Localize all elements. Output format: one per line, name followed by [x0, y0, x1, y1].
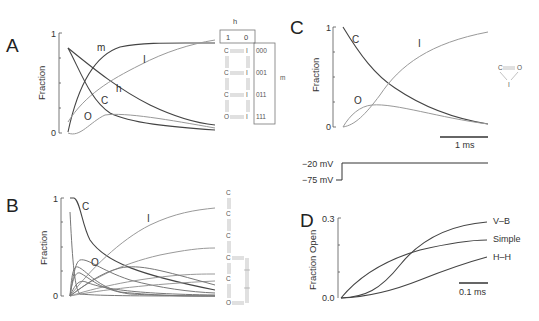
voltage-step-trace — [336, 163, 488, 180]
panel-a-curve-i — [68, 40, 215, 122]
panel-d-legend-hh: H–H — [493, 252, 511, 262]
panel-a-label-o: O — [84, 111, 92, 122]
scheme-a-state: C — [224, 69, 229, 76]
panel-b-ytick-0: 0 — [53, 291, 58, 301]
scheme-c-state-i: I — [508, 81, 510, 88]
panel-b-y-axis — [61, 198, 64, 296]
panel-c-scheme: C O I — [498, 64, 522, 88]
panel-c-ytick-0: 0 — [326, 122, 331, 132]
scheme-a-state: C — [224, 47, 229, 54]
panel-b-label-i: I — [147, 213, 150, 224]
scheme-a-state: O — [224, 113, 229, 120]
panel-a-label: A — [6, 35, 19, 56]
panel-c-label-i: I — [418, 38, 421, 49]
scheme-a-state: I — [246, 47, 248, 54]
panel-b-ylabel: Fraction — [38, 231, 49, 265]
panel-d-y-axis — [338, 218, 341, 298]
scheme-b-state: C — [226, 254, 231, 261]
panel-c-curve-c — [343, 27, 488, 124]
panel-a-label-h: h — [116, 83, 122, 94]
panel-d-ytick-bottom: 0.0 — [322, 293, 335, 303]
scheme-b-state: O — [226, 299, 231, 306]
panel-a-label-i: I — [143, 54, 146, 65]
panel-c-label-o: O — [354, 95, 362, 106]
panel-d-legend-simple: Simple — [493, 234, 521, 244]
scheme-a-state: I — [246, 91, 248, 98]
panel-b: B 1 0 Fraction C I O C C C C C O — [6, 189, 250, 306]
scheme-b-state: C — [226, 275, 231, 282]
panel-c: C 1 0 Fraction C I O 1 ms C O I −20 mV −… — [290, 17, 522, 185]
scheme-c-state-o: O — [517, 64, 522, 71]
scheme-a-arrows — [226, 50, 249, 118]
scheme-h-state-0: 0 — [244, 33, 248, 42]
figure-canvas: A 1 0 Fraction m I h C O h 1 0 000 001 0… — [0, 0, 539, 321]
voltage-low-label: −75 mV — [302, 175, 333, 185]
panel-d: D 0.3 0.0 Fraction Open V–B Simple H–H 0… — [300, 210, 521, 303]
panel-c-curve-o — [343, 105, 488, 127]
scheme-h-title: h — [233, 17, 237, 26]
scheme-a-state: C — [224, 91, 229, 98]
panel-c-y-axis — [333, 27, 336, 127]
scheme-m-title: m — [280, 74, 285, 81]
scheme-m-state-3: 111 — [256, 113, 266, 120]
voltage-high-label: −20 mV — [302, 159, 333, 169]
panel-c-label: C — [290, 17, 304, 38]
panel-b-curve-c — [70, 198, 215, 290]
panel-d-label: D — [300, 210, 314, 231]
scheme-b-state: C — [226, 232, 231, 239]
panel-d-scalebar-label: 0.1 ms — [459, 287, 487, 297]
panel-a-scheme: h 1 0 000 001 011 111 m C C C O I I I I — [220, 17, 285, 124]
scheme-m-state-1: 001 — [256, 69, 267, 76]
panel-b-label: B — [6, 195, 19, 216]
scheme-b-state: C — [226, 189, 231, 196]
voltage-protocol: −20 mV −75 mV — [302, 159, 488, 185]
scheme-m-box — [254, 43, 275, 124]
scheme-b-arrows — [228, 198, 250, 304]
scheme-m-state-0: 000 — [256, 47, 267, 54]
scheme-a-state: I — [246, 113, 248, 120]
scheme-b-state: C — [226, 210, 231, 217]
panel-c-label-c: C — [352, 34, 359, 45]
panel-a-ytick-1: 1 — [51, 29, 56, 39]
panel-a-label-m: m — [97, 42, 105, 53]
panel-c-scalebar-label: 1 ms — [455, 140, 475, 150]
panel-c-ylabel: Fraction — [310, 58, 321, 92]
panel-b-ytick-1: 1 — [53, 194, 58, 204]
scheme-m-state-2: 011 — [256, 91, 267, 98]
panel-b-scheme: C C C C C O — [226, 189, 250, 306]
panel-b-label-c: C — [82, 201, 89, 212]
scheme-h-state-1: 1 — [226, 33, 230, 42]
scheme-c-state-c: C — [498, 64, 503, 71]
panel-d-ylabel: Fraction Open — [307, 230, 318, 290]
panel-d-legend-vb: V–B — [493, 216, 510, 226]
panel-a-ytick-0: 0 — [51, 128, 56, 138]
panel-c-ytick-1: 1 — [326, 23, 331, 33]
panel-b-label-o: O — [91, 257, 99, 268]
scheme-a-state: I — [246, 69, 248, 76]
panel-a-y-axis — [59, 33, 62, 133]
panel-a-ylabel: Fraction — [36, 66, 47, 100]
panel-a-label-c: C — [101, 95, 108, 106]
panel-c-curve-i — [343, 32, 488, 127]
panel-a: A 1 0 Fraction m I h C O h 1 0 000 001 0… — [6, 17, 285, 138]
panel-d-ytick-top: 0.3 — [322, 214, 335, 224]
